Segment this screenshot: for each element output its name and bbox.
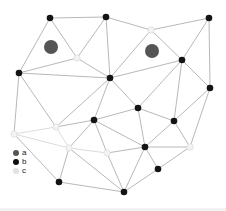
- graph-edge: [94, 120, 145, 147]
- graph-node-b: [179, 57, 186, 64]
- graph-edge: [182, 60, 210, 88]
- graph-edge: [94, 108, 138, 120]
- graph-edge: [19, 73, 110, 78]
- graph-node-b: [155, 166, 162, 173]
- graph-node-b: [207, 85, 214, 92]
- legend-dot-b: [13, 159, 19, 165]
- graph-node-b: [103, 14, 110, 21]
- graph-edge: [19, 73, 56, 127]
- graph-edge: [182, 18, 209, 60]
- graph-edge: [138, 108, 174, 121]
- graph-edge: [59, 182, 124, 192]
- legend-label: c: [22, 167, 26, 175]
- legend-item-a: a: [13, 149, 26, 156]
- graph-edge: [106, 17, 110, 78]
- marker-a-node: [44, 40, 58, 54]
- legend-item-b: b: [13, 158, 26, 165]
- legend-dot-c: [13, 168, 19, 174]
- graph-node-b: [47, 15, 54, 22]
- graph-node-b: [142, 144, 149, 151]
- graph-edge: [174, 121, 190, 147]
- graph-edge: [110, 30, 151, 78]
- graph-edge: [14, 127, 56, 134]
- graph-edge: [110, 78, 138, 108]
- legend-dot-a: [13, 150, 19, 156]
- graph-node-c: [11, 131, 17, 137]
- graph-edge: [77, 17, 106, 58]
- graph-edge: [77, 58, 110, 78]
- graph-edge: [209, 18, 210, 88]
- graph-edge: [14, 134, 69, 148]
- graph-edge: [138, 60, 182, 108]
- graph-edge: [158, 147, 190, 169]
- graph-node-c: [53, 124, 59, 130]
- graph-edge: [145, 121, 174, 147]
- legend: abc: [13, 149, 26, 174]
- graph-edge: [94, 120, 107, 153]
- graph-edge: [19, 58, 77, 73]
- graph-edge: [174, 60, 182, 121]
- graph-node-b: [91, 117, 98, 124]
- graph-node-c: [74, 55, 80, 61]
- graph-node-c: [66, 145, 72, 151]
- graph-edge: [69, 148, 124, 192]
- legend-label: a: [22, 149, 26, 157]
- marker-a-node: [145, 44, 159, 58]
- graph-edge: [59, 148, 69, 182]
- graph-node-c: [148, 27, 154, 33]
- graph-edge: [145, 147, 158, 169]
- graph-node-b: [135, 105, 142, 112]
- graph-node-b: [56, 179, 63, 186]
- mesh-graph: [0, 0, 226, 211]
- graph-node-c: [187, 144, 193, 150]
- graph-node-b: [107, 75, 114, 82]
- graph-edge: [107, 147, 145, 153]
- graph-node-b: [206, 15, 213, 22]
- graph-node-b: [121, 189, 128, 196]
- graph-edge: [94, 78, 110, 120]
- graph-edge: [138, 108, 145, 147]
- figure-canvas: abc: [0, 0, 226, 211]
- graph-edge: [50, 17, 106, 18]
- graph-edge: [56, 78, 110, 127]
- graph-edge: [14, 73, 19, 134]
- graph-edge: [151, 18, 209, 30]
- graph-node-b: [16, 70, 23, 77]
- graph-edge: [110, 60, 182, 78]
- graph-edge: [107, 153, 124, 192]
- graph-node-c: [104, 150, 110, 156]
- page-bottom-edge: [0, 208, 226, 211]
- graph-node-b: [171, 118, 178, 125]
- graph-edge: [106, 17, 151, 30]
- legend-label: b: [22, 158, 26, 166]
- legend-item-c: c: [13, 167, 26, 174]
